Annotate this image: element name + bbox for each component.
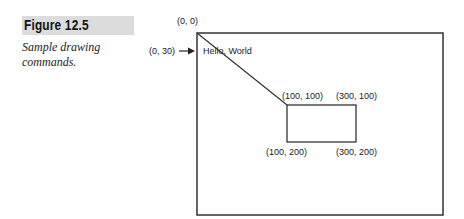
origin-label: (0, 0)	[177, 16, 198, 26]
drawing-diagram	[0, 0, 464, 219]
drawn-rectangle	[287, 105, 356, 142]
rect-bottom-left-label: (100, 200)	[266, 147, 307, 157]
canvas-frame	[197, 33, 443, 215]
text-origin-label: (0, 30)	[149, 46, 175, 56]
rect-bottom-right-label: (300, 200)	[336, 147, 377, 157]
rect-top-left-label: (100, 100)	[282, 91, 323, 101]
diagonal-line	[197, 33, 287, 105]
hello-world-text: Hello, World	[203, 46, 252, 56]
arrow-right-icon	[188, 48, 195, 55]
rect-top-right-label: (300, 100)	[336, 91, 377, 101]
